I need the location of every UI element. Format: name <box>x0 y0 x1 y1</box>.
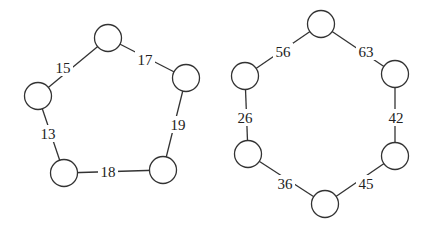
graph-diagram: 1517191813566342453626 <box>0 0 428 229</box>
hexagon-graph-node <box>232 63 259 90</box>
hexagon-graph-node <box>382 61 409 88</box>
edge-weight-label: 56 <box>276 44 292 60</box>
edges-layer <box>38 24 395 204</box>
edge-weight-label: 42 <box>389 110 404 126</box>
hexagon-graph-node <box>308 11 335 38</box>
pentagon-graph-node <box>25 83 52 110</box>
edge-weight-label: 45 <box>359 176 374 192</box>
edge-weight-label: 18 <box>101 164 116 180</box>
edge-weight-label: 26 <box>238 110 254 126</box>
hexagon-graph-node <box>235 141 262 168</box>
pentagon-graph-node <box>150 157 177 184</box>
edge-weight-label: 63 <box>359 44 374 60</box>
pentagon-graph-node <box>95 25 122 52</box>
hexagon-graph-node <box>382 143 409 170</box>
hexagon-graph-node <box>312 191 339 218</box>
edge-weight-label: 15 <box>56 60 71 76</box>
edge-weight-label: 19 <box>171 117 186 133</box>
edge-weight-label: 17 <box>138 52 154 68</box>
pentagon-graph-node <box>51 160 78 187</box>
edge-weight-label: 36 <box>278 176 294 192</box>
pentagon-graph-node <box>173 65 200 92</box>
labels-layer: 1517191813566342453626 <box>38 43 406 192</box>
edge-weight-label: 13 <box>41 126 56 142</box>
